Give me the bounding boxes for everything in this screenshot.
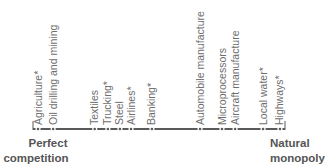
industry-marker xyxy=(37,128,40,131)
market-structure-diagram: Agriculture*Oil drilling and miningTexti… xyxy=(0,0,330,167)
industry-labels: Agriculture*Oil drilling and miningTexti… xyxy=(32,11,286,125)
left-end-label-line1: Perfect xyxy=(29,137,68,149)
industry-label: Airlines* xyxy=(125,86,137,125)
industry-label: Oil drilling and mining xyxy=(47,24,59,125)
industry-label: Highways* xyxy=(273,75,285,125)
industry-marker xyxy=(52,128,55,131)
industry-marker xyxy=(221,128,224,131)
industry-label: Agriculture* xyxy=(32,71,44,125)
industry-marker xyxy=(130,128,133,131)
industry-label: Textiles xyxy=(88,90,100,125)
industry-label: Microprocessors xyxy=(216,48,228,125)
industry-label: Local water* xyxy=(257,67,269,125)
industry-marker xyxy=(279,128,282,131)
industry-marker xyxy=(151,128,154,131)
spectrum-axis xyxy=(33,121,285,131)
industry-marker xyxy=(262,128,265,131)
industry-label: Banking* xyxy=(145,83,157,125)
industry-marker xyxy=(119,128,122,131)
industry-marker xyxy=(93,128,96,131)
industry-marker xyxy=(199,128,202,131)
industry-label: Aircraft manufacture xyxy=(229,30,241,125)
industry-marker xyxy=(234,128,237,131)
right-end-label-line1: Natural xyxy=(270,137,310,149)
industry-label: Trucking* xyxy=(101,81,113,125)
left-end-label-line2: competition xyxy=(3,152,68,164)
industry-marker xyxy=(107,128,110,131)
right-end-label-line2: monopoly xyxy=(270,152,326,164)
industry-label: Automobile manufacture xyxy=(194,11,206,125)
